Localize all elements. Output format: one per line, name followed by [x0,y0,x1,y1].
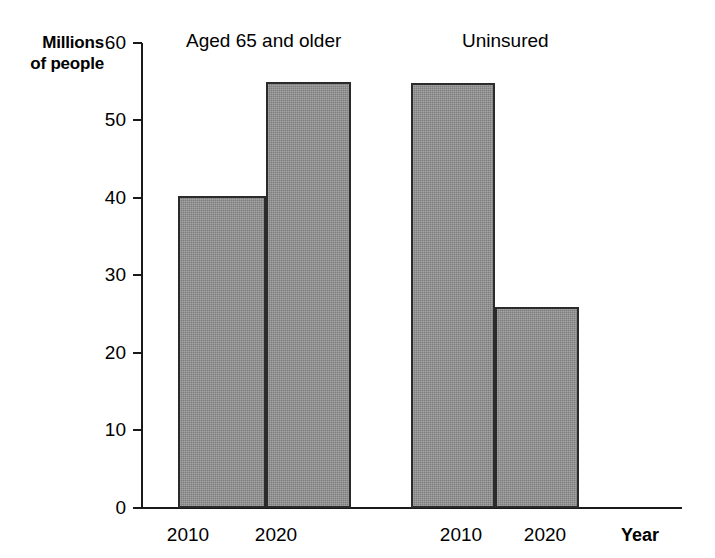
x-axis-title: Year [621,524,659,546]
bar-uninsured-2010[interactable] [411,83,495,508]
y-tick-label-30: 30 [78,265,126,284]
bar-uninsured-2020[interactable] [495,307,579,509]
bar-chart-figure: Millions of people 60 50 40 30 20 10 0 A… [0,0,715,558]
y-tick-label-10: 10 [78,420,126,439]
bar-aged65-2010[interactable] [178,196,266,508]
bar-aged65-2020[interactable] [266,82,351,508]
y-tick-label-40: 40 [78,188,126,207]
x-tick-label-bar2: 2020 [226,524,326,546]
y-tick-label-60: 60 [78,33,126,52]
y-axis-title-line-2: of people [8,53,104,74]
y-tick-label-50: 50 [78,110,126,129]
y-tick-label-0: 0 [78,498,126,517]
y-tick-label-20: 20 [78,343,126,362]
x-tick-label-bar4: 2020 [495,524,595,546]
x-tick-label-bar1: 2010 [138,524,238,546]
plot-area [141,43,682,508]
